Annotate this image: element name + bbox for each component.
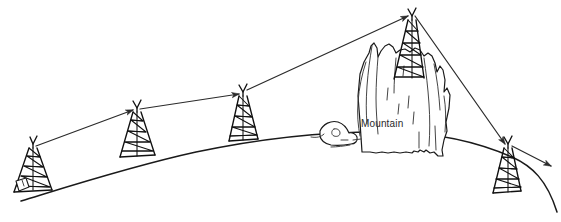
diagram-canvas: Mountain: [0, 0, 561, 222]
relay-link-diagram: Mountain: [0, 0, 561, 222]
mountain-label: Mountain: [361, 118, 403, 129]
canvas-background: [0, 0, 561, 222]
